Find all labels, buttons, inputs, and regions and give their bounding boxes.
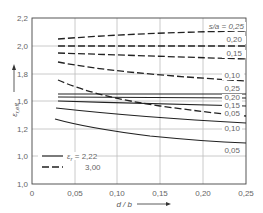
curve-solid-0-10 bbox=[56, 108, 246, 123]
curve-dashed-0-10 bbox=[58, 62, 246, 81]
x-tick: 0,10 bbox=[109, 189, 125, 198]
label-dashed-0-15: 0,15 bbox=[226, 49, 242, 58]
curve-dashed-0-25 bbox=[58, 31, 246, 39]
label-dashed-0-20: 0,20 bbox=[226, 35, 242, 44]
y-tick: 2,2 bbox=[17, 14, 29, 23]
x-axis-arrow-icon bbox=[137, 202, 171, 206]
x-tick-labels: 0 0,05 0,10 0,15 0,20 0,25 bbox=[30, 189, 255, 198]
x-tick: 0 bbox=[30, 189, 35, 198]
curve-labels: s/a = 0,25 0,20 0,15 0,10 0,25 0,20 0,15… bbox=[206, 22, 246, 155]
label-sa-0-25: s/a = 0,25 bbox=[209, 22, 245, 31]
x-tick: 0,05 bbox=[67, 189, 83, 198]
curve-solid-0-20 bbox=[58, 97, 246, 98]
x-tick: 0,15 bbox=[152, 189, 168, 198]
curve-dashed-0-15 bbox=[58, 53, 246, 59]
label-solid-0-10: 0,10 bbox=[224, 124, 240, 133]
y-tick: 2,0 bbox=[17, 42, 29, 51]
x-tick: 0,25 bbox=[238, 189, 254, 198]
curve-solid-0-15 bbox=[58, 101, 246, 106]
legend: εr = 2,22 3,00 bbox=[38, 152, 101, 172]
label-solid-0-25: 0,25 bbox=[224, 84, 240, 93]
y-tick: 1,0 bbox=[17, 152, 29, 161]
x-axis-label: d / b bbox=[116, 200, 132, 209]
y-tick-labels: 2,2 2,0 1,8 1,6 1,2 1,0 1,0 bbox=[17, 14, 29, 189]
curve-solid-0-05 bbox=[55, 119, 246, 143]
y-tick: 1,8 bbox=[17, 70, 29, 79]
y-tick: 1,0 bbox=[17, 180, 29, 189]
x-tick: 0,20 bbox=[195, 189, 211, 198]
legend-dashed-label: 3,00 bbox=[85, 163, 101, 172]
y-axis-arrow-icon bbox=[12, 64, 16, 92]
chart: 2,2 2,0 1,8 1,6 1,2 1,0 1,0 0 0,05 0,10 … bbox=[0, 0, 263, 213]
label-dashed-0-10: 0,10 bbox=[224, 71, 240, 80]
label-solid-0-05: 0,05 bbox=[224, 146, 240, 155]
label-dashed-0-05: 0,05 bbox=[224, 109, 240, 118]
y-axis-label: εr,eff bbox=[10, 102, 20, 117]
y-tick: 1,2 bbox=[17, 125, 29, 134]
legend-solid-label: εr = 2,22 bbox=[67, 152, 98, 162]
